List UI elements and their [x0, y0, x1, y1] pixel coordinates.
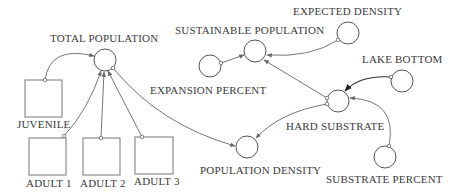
label-adult3: ADULT 3 — [134, 175, 180, 187]
var-population-density[interactable] — [236, 136, 258, 158]
label-adult1: ADULT 1 — [26, 177, 72, 189]
stock-adult2[interactable] — [83, 138, 120, 175]
label-hard-substrate: HARD SUBSTRATE — [286, 120, 384, 132]
label-juvenile: JUVENILE — [17, 118, 71, 130]
label-adult2: ADULT 2 — [80, 177, 126, 189]
label-lake-bottom: LAKE BOTTOM — [362, 53, 443, 65]
link-adult2-total — [101, 72, 104, 138]
label-population-density: POPULATION DENSITY — [200, 164, 321, 176]
link-hardsubstrate-sustainable — [264, 60, 327, 98]
var-hard-substrate[interactable] — [327, 90, 349, 112]
link-lakebottom-hardsubstrate — [345, 77, 391, 91]
influence-diagram: TOTAL POPULATION SUSTAINABLE POPULATION … — [0, 0, 462, 193]
var-sustainable-population[interactable] — [244, 40, 266, 62]
var-substrate-percent[interactable] — [374, 146, 396, 168]
label-sustainable-population: SUSTAINABLE POPULATION — [175, 24, 324, 36]
link-juvenile-total — [45, 53, 94, 80]
var-lake-bottom[interactable] — [391, 70, 413, 92]
label-expected-density: EXPECTED DENSITY — [293, 5, 402, 17]
label-expansion-percent: EXPANSION PERCENT — [150, 84, 266, 96]
label-substrate-percent: SUBSTRATE PERCENT — [326, 173, 443, 185]
stock-juvenile[interactable] — [25, 80, 62, 117]
stock-adult1[interactable] — [29, 138, 66, 175]
stock-adult3[interactable] — [135, 137, 173, 174]
link-expected-sustainable — [267, 40, 338, 55]
link-expansion-sustainable — [221, 55, 244, 63]
var-expansion-percent[interactable] — [199, 55, 221, 77]
label-total-population: TOTAL POPULATION — [50, 32, 158, 44]
var-expected-density[interactable] — [337, 22, 359, 44]
link-total-popdensity — [113, 68, 235, 146]
